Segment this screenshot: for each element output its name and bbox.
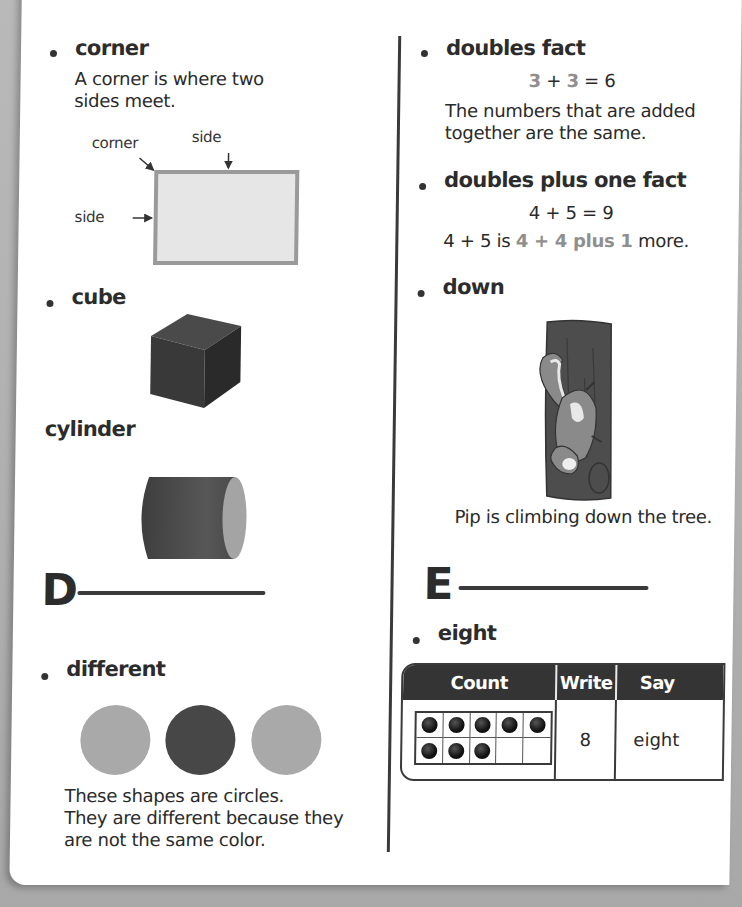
explanation-prefix: 4 + 5 is	[443, 230, 516, 251]
ten-frame-cell	[470, 738, 497, 763]
term-cylinder: cylinder	[45, 417, 136, 441]
counter-dot	[502, 717, 518, 733]
counter-dot	[529, 717, 545, 733]
term-different: different	[66, 657, 165, 681]
corner-definition-line1: A corner is where two	[74, 68, 264, 90]
counter-dot	[475, 717, 491, 733]
explanation-plus: +	[528, 230, 555, 251]
bullet	[421, 50, 428, 57]
ten-frame-cell	[416, 713, 443, 738]
term-eight: eight	[438, 621, 497, 645]
term-cube: cube	[71, 285, 126, 309]
doubles-fact-definition-line1: The numbers that are added	[445, 100, 696, 122]
term-down: down	[443, 275, 505, 299]
ten-frame-cell	[443, 738, 470, 763]
different-caption-line1: These shapes are circles.	[64, 785, 284, 807]
counter-dot	[475, 743, 491, 759]
circles-illustration	[79, 702, 330, 778]
ten-frame-cell-empty	[496, 738, 523, 763]
doubles-fact-definition-line2: together are the same.	[445, 122, 647, 144]
rectangle-corner-diagram	[98, 150, 310, 270]
bullet	[50, 50, 57, 57]
section-letter-e: E	[423, 562, 454, 606]
cylinder-illustration	[134, 475, 255, 565]
explanation-highlight-a: 4	[516, 230, 529, 251]
label-side-top: side	[192, 128, 222, 146]
header-write: Write	[557, 665, 615, 700]
circle-light	[80, 705, 151, 775]
ten-frame	[414, 711, 553, 765]
different-caption-line2: They are different because they	[64, 807, 343, 829]
equation-addend-a: 3	[528, 70, 541, 91]
counter-dot	[421, 717, 437, 733]
down-caption: Pip is climbing down the tree.	[454, 506, 712, 528]
section-letter-d: D	[41, 568, 78, 612]
ten-frame-cell-empty	[523, 738, 550, 763]
ten-frame-cell	[497, 713, 524, 738]
header-count: Count	[403, 665, 555, 700]
different-caption-line3: are not the same color.	[64, 829, 266, 851]
explanation-suffix: more.	[632, 230, 689, 251]
doubles-fact-equation: 3 + 3 = 6	[528, 70, 615, 92]
doubles-plus-one-explanation: 4 + 5 is 4 + 4 plus 1 more.	[443, 230, 689, 252]
equation-addend-b: 3	[566, 70, 579, 91]
circle-dark	[165, 705, 236, 775]
bullet	[418, 290, 425, 297]
explanation-highlight-b: 4 plus 1	[555, 230, 633, 251]
ten-frame-cell	[524, 713, 551, 738]
column-divider	[387, 36, 401, 852]
corner-definition-line2: sides meet.	[74, 90, 175, 112]
count-write-say-table: Count Write Say 8 eight	[400, 663, 726, 781]
header-say: Say	[617, 665, 697, 700]
equation-result: = 6	[584, 70, 616, 91]
term-doubles-plus-one: doubles plus one fact	[444, 168, 686, 192]
bullet	[41, 673, 48, 680]
ten-frame-cell	[416, 738, 443, 763]
equation-plus: +	[546, 70, 561, 91]
section-rule-d	[77, 591, 265, 595]
glossary-page: corner A corner is where two sides meet.…	[9, 0, 742, 885]
counter-dot	[448, 717, 464, 733]
bullet	[419, 183, 426, 190]
term-corner: corner	[75, 36, 149, 60]
circle-light	[251, 705, 322, 775]
bullet	[46, 300, 53, 307]
count-cell	[402, 700, 555, 779]
ten-frame-cell	[470, 713, 497, 738]
section-rule-e	[458, 586, 648, 590]
say-cell: eight	[616, 700, 697, 779]
doubles-plus-one-equation: 4 + 5 = 9	[529, 202, 614, 224]
cube-illustration	[146, 312, 247, 412]
counter-dot	[448, 743, 464, 759]
counter-dot	[421, 743, 437, 759]
squirrel-climbing-tree-illustration	[525, 318, 628, 503]
write-cell: 8	[556, 700, 615, 779]
term-doubles-fact: doubles fact	[446, 36, 586, 60]
ten-frame-cell	[443, 713, 470, 738]
bullet	[413, 637, 420, 644]
